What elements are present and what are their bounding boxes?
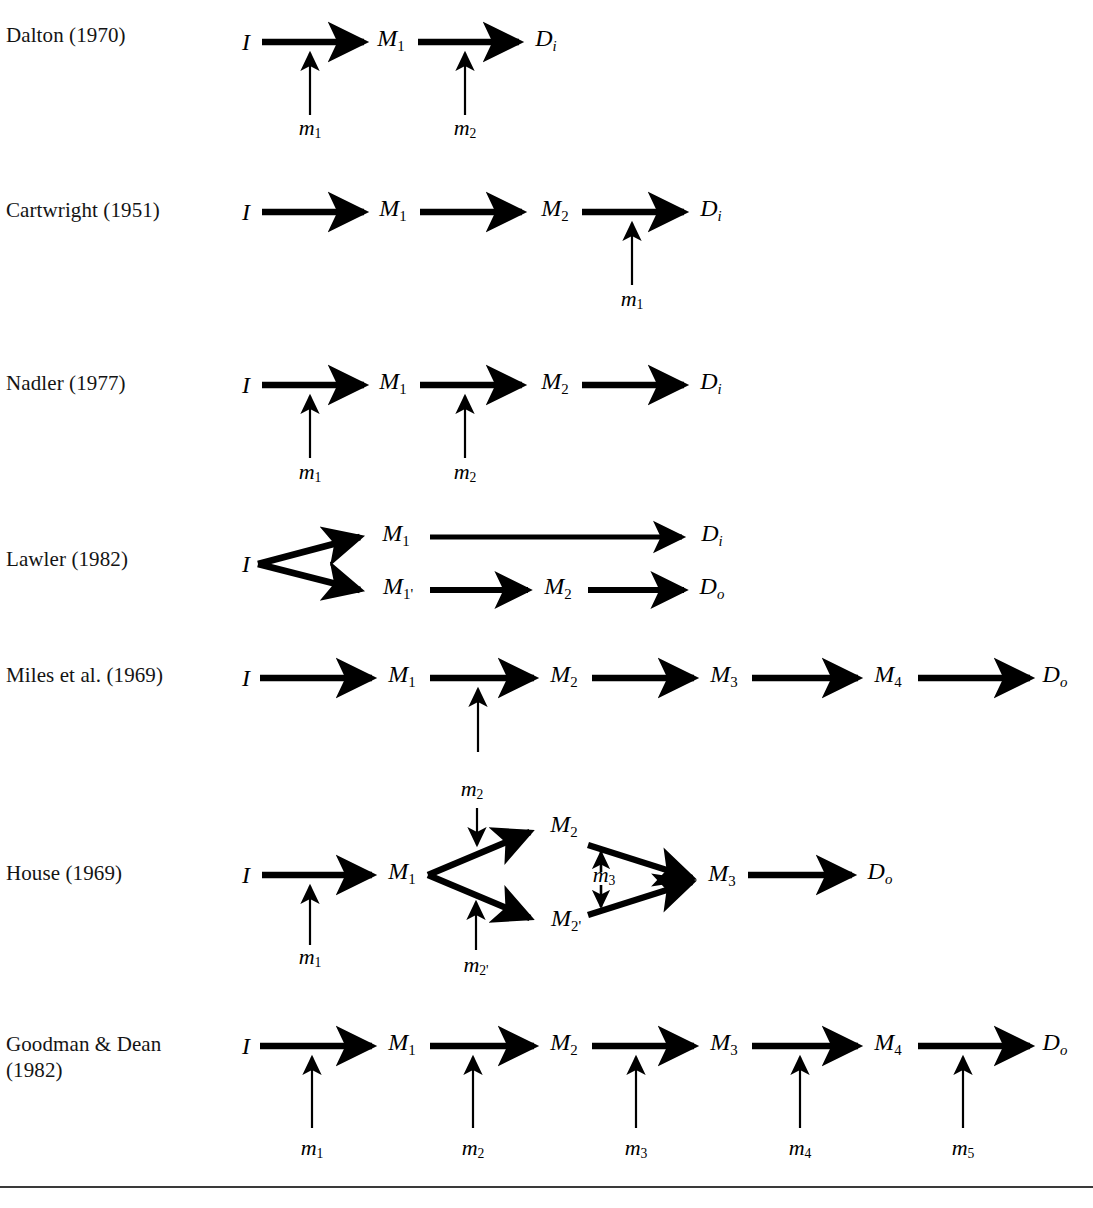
mediator-m3-goodman: m3 xyxy=(625,1137,648,1166)
node-m2-lawler: M2 xyxy=(544,574,571,605)
node-i-cartwright: I xyxy=(242,200,250,224)
node-do-house: Do xyxy=(868,859,893,890)
node-m1-house: M1 xyxy=(388,859,415,890)
node-m3-miles: M3 xyxy=(710,662,737,693)
node-m1-goodman: M1 xyxy=(388,1030,415,1061)
mediator-m2prime-house: m2' xyxy=(463,954,488,983)
row-label-dalton: Dalton (1970) xyxy=(6,22,126,48)
figure-canvas: Dalton (1970) Cartwright (1951) Nadler (… xyxy=(0,0,1093,1208)
row-label-nadler: Nadler (1977) xyxy=(6,370,126,396)
row-label-cartwright: Cartwright (1951) xyxy=(6,197,160,223)
node-i-house: I xyxy=(242,863,250,887)
mediator-m1-house: m1 xyxy=(299,946,322,975)
node-m4-goodman: M4 xyxy=(874,1030,901,1061)
mediator-m2-goodman: m2 xyxy=(462,1137,485,1166)
node-i-miles: I xyxy=(242,666,250,690)
mediator-m1-goodman: m1 xyxy=(301,1137,324,1166)
node-i-dalton: I xyxy=(242,30,250,54)
lawler-arrows xyxy=(258,537,684,597)
mediator-m4-goodman: m4 xyxy=(789,1137,812,1166)
row-label-miles: Miles et al. (1969) xyxy=(6,662,163,688)
node-m1-cartwright: M1 xyxy=(379,196,406,227)
node-di-cartwright: Di xyxy=(700,196,721,227)
mediator-m2-dalton: m2 xyxy=(454,117,477,146)
node-m2-house: M2 xyxy=(550,812,577,843)
node-di-lawler: Di xyxy=(701,521,722,552)
node-do-lawler: Do xyxy=(700,574,725,605)
node-i-nadler: I xyxy=(242,373,250,397)
mediator-m2-house: m2 xyxy=(461,778,484,807)
node-m2prime-house: M2' xyxy=(551,906,581,937)
row-label-house: House (1969) xyxy=(6,860,122,886)
node-m2-nadler: M2 xyxy=(541,369,568,400)
mediator-m1-cartwright: m1 xyxy=(621,288,644,317)
node-m2-miles: M2 xyxy=(550,662,577,693)
node-m1-nadler: M1 xyxy=(379,369,406,400)
goodman-arrows xyxy=(260,1046,1030,1128)
mediator-m3-house: m3 xyxy=(593,864,616,893)
nadler-arrows xyxy=(262,385,684,458)
node-m1-lawler: M1 xyxy=(382,521,409,552)
row-label-lawler: Lawler (1982) xyxy=(6,546,128,572)
node-m4-miles: M4 xyxy=(874,662,901,693)
node-do-miles: Do xyxy=(1043,662,1068,693)
miles-arrows xyxy=(260,678,1030,752)
node-do-goodman: Do xyxy=(1043,1030,1068,1061)
node-m1prime-lawler: M1' xyxy=(383,574,413,605)
mediator-m5-goodman: m5 xyxy=(952,1137,975,1166)
row-label-goodman-dean: Goodman & Dean (1982) xyxy=(6,1031,161,1083)
mediator-m1-nadler: m1 xyxy=(299,461,322,490)
bottom-divider xyxy=(0,1186,1093,1188)
node-m2-cartwright: M2 xyxy=(541,196,568,227)
node-di-dalton: Di xyxy=(535,26,556,57)
mediator-m1-dalton: m1 xyxy=(299,117,322,146)
node-m3-house: M3 xyxy=(708,861,735,892)
mediator-m2-nadler: m2 xyxy=(454,461,477,490)
node-i-lawler: I xyxy=(242,552,250,576)
node-m2-goodman: M2 xyxy=(550,1030,577,1061)
node-m3-goodman: M3 xyxy=(710,1030,737,1061)
node-m1-dalton: M1 xyxy=(377,26,404,57)
node-di-nadler: Di xyxy=(700,369,721,400)
node-m1-miles: M1 xyxy=(388,662,415,693)
node-i-goodman: I xyxy=(242,1034,250,1058)
cartwright-arrows xyxy=(262,212,684,285)
